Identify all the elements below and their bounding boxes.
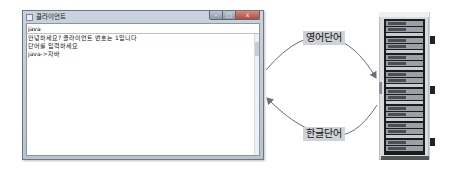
server-rack-icon [379, 12, 437, 160]
korean-word-label: 한글단어 [303, 127, 345, 141]
english-word-label: 영어단어 [303, 31, 345, 45]
